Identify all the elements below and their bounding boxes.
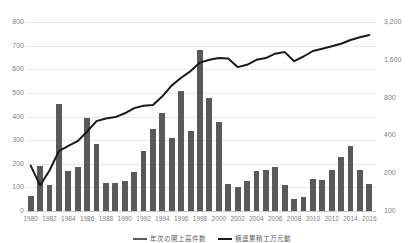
legend-item-bars: 年次の開上高件数: [133, 235, 206, 243]
legend-label-line: 横連累積工万元動: [235, 235, 291, 243]
legend-item-line: 横連累積工万元動: [218, 235, 291, 243]
legend-label-bars: 年次の開上高件数: [150, 235, 206, 243]
line-series: [0, 0, 416, 243]
legend-bar-swatch-icon: [133, 238, 147, 240]
x-axis-tick-label: 2016: [358, 215, 380, 223]
line-path: [31, 35, 370, 185]
legend-line-swatch-icon: [218, 238, 232, 240]
chart-container: 0100200300400500600700800 1002004008001,…: [0, 0, 416, 243]
